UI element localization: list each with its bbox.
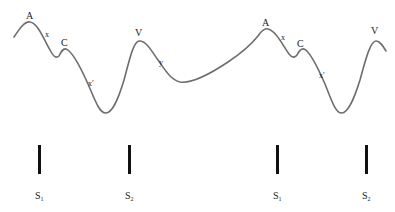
stimulus-label-s2-1: S2 xyxy=(125,190,134,202)
peak-label-v-1: V xyxy=(135,27,143,38)
waveform-diagram: A x C x′ V y A x C x′ V S1 S2 S1 S2 xyxy=(0,0,395,212)
peak-label-v-2: V xyxy=(371,25,379,36)
segment-label-x-prime-2: x′ xyxy=(319,71,325,80)
segment-label-x-prime-1: x′ xyxy=(88,79,94,88)
peak-label-c-1: C xyxy=(61,37,68,48)
stimulus-label-s1-1: S1 xyxy=(35,190,44,202)
peak-label-a-2: A xyxy=(262,17,270,28)
segment-label-x-2: x xyxy=(281,33,285,42)
peak-label-c-2: C xyxy=(297,38,304,49)
waveform-curve xyxy=(14,22,386,113)
stimulus-label-s2-2: S2 xyxy=(362,190,371,202)
segment-label-x-1: x xyxy=(45,30,49,39)
peak-label-a-1: A xyxy=(26,10,34,21)
segment-label-y-1: y xyxy=(159,58,163,67)
stimulus-label-s1-2: S1 xyxy=(273,190,282,202)
